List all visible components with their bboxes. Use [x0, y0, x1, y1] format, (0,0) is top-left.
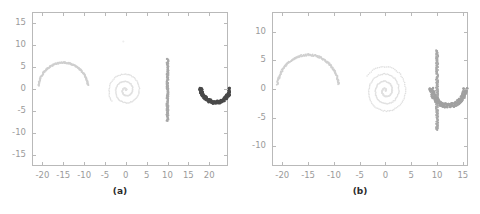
data-point [371, 101, 373, 103]
data-point [435, 49, 437, 51]
data-point [403, 80, 405, 82]
data-point [368, 94, 370, 96]
data-point [402, 78, 404, 80]
x-tick [463, 162, 464, 166]
data-point [403, 98, 405, 100]
data-point [375, 107, 377, 109]
data-point [401, 77, 403, 79]
data-point [110, 97, 112, 99]
data-point [123, 73, 125, 75]
data-point [108, 94, 110, 96]
data-point [122, 40, 124, 42]
data-point [396, 82, 398, 84]
data-point [404, 84, 406, 86]
y-tick [272, 89, 276, 90]
data-point [405, 91, 407, 93]
data-point [392, 110, 394, 112]
x-tick-label: -5 [94, 170, 116, 180]
data-point [402, 99, 404, 101]
data-point [378, 108, 380, 110]
y-tick-label: -5 [242, 112, 266, 122]
data-point [368, 95, 370, 97]
y-tick-right [224, 155, 228, 156]
data-point [368, 89, 370, 91]
data-point [369, 72, 371, 74]
y-tick-label: 15 [2, 17, 26, 27]
x-tick [385, 162, 386, 166]
data-point [366, 75, 368, 77]
data-point [369, 98, 371, 100]
x-tick-label: -15 [297, 170, 319, 180]
data-point [393, 109, 395, 111]
y-tick-label: -10 [242, 140, 266, 150]
data-point [372, 69, 374, 71]
data-point [128, 74, 130, 76]
x-tick-top [84, 12, 85, 16]
data-point [126, 74, 128, 76]
y-tick-label: 0 [2, 83, 26, 93]
x-tick-top [334, 12, 335, 16]
data-point [394, 77, 396, 79]
x-tick [105, 162, 106, 166]
y-tick-label: 5 [242, 54, 266, 64]
data-point [387, 66, 389, 68]
y-tick-label: 5 [2, 61, 26, 71]
x-tick [188, 162, 189, 166]
data-point [398, 105, 400, 107]
data-point [400, 73, 402, 75]
data-point [166, 58, 168, 60]
x-tick-top [188, 12, 189, 16]
data-point [111, 100, 113, 102]
data-point [380, 109, 382, 111]
x-tick [84, 162, 85, 166]
data-point [404, 94, 406, 96]
x-tick [147, 162, 148, 166]
x-tick-top [360, 12, 361, 16]
data-point [437, 79, 439, 81]
y-tick-right [464, 146, 468, 147]
data-point [109, 86, 111, 88]
data-point [404, 96, 406, 98]
y-tick [32, 67, 36, 68]
data-point [109, 88, 111, 90]
x-tick-label: -15 [52, 170, 74, 180]
data-point [405, 93, 407, 95]
data-point [394, 69, 396, 71]
panel-a: -20-15-10-505101520151050-5-10-15 (a) [0, 0, 240, 214]
data-point [369, 83, 371, 85]
x-tick-label: -5 [349, 170, 371, 180]
y-tick [32, 89, 36, 90]
x-tick [63, 162, 64, 166]
scatter-plot-b [272, 12, 468, 166]
data-point [405, 89, 407, 91]
y-tick-label: -10 [2, 127, 26, 137]
x-tick-top [42, 12, 43, 16]
y-tick [32, 133, 36, 134]
data-point [387, 110, 389, 112]
data-point [117, 75, 119, 77]
data-point [369, 88, 371, 90]
data-point [389, 110, 391, 112]
data-point [382, 110, 384, 112]
data-point [125, 73, 127, 75]
x-tick-label: 5 [136, 170, 158, 180]
y-tick-right [464, 32, 468, 33]
data-point [118, 75, 120, 77]
x-tick-top [308, 12, 309, 16]
data-point [369, 85, 371, 87]
y-tick-right [224, 133, 228, 134]
y-tick-right [464, 118, 468, 119]
data-point [395, 70, 397, 72]
data-point [109, 91, 111, 93]
x-tick-top [168, 12, 169, 16]
data-point [391, 67, 393, 69]
y-tick [32, 23, 36, 24]
y-tick-right [224, 67, 228, 68]
y-tick [32, 155, 36, 156]
data-point [109, 85, 111, 87]
data-point [402, 101, 404, 103]
x-tick [411, 162, 412, 166]
x-tick-label: 0 [115, 170, 137, 180]
x-tick-top [437, 12, 438, 16]
data-point [111, 80, 113, 82]
